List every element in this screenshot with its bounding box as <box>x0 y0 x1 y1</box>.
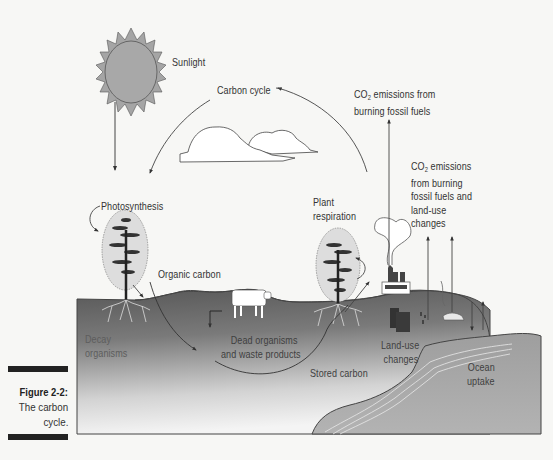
co2-landuse-text: emissions <box>428 160 471 172</box>
organic-carbon-arrow <box>133 285 143 297</box>
ocean-uptake-label: Ocean uptake <box>467 361 495 388</box>
ocean-line1: Ocean <box>468 361 495 373</box>
carbon-cycle-label: Carbon cycle <box>217 84 271 98</box>
co2-fossil-line2: burning fossil fuels <box>354 105 430 117</box>
organic-carbon-label: Organic carbon <box>158 268 221 282</box>
caption-bottom-bar <box>8 434 68 440</box>
co2-landuse-line2: from burning <box>411 177 463 189</box>
caption-top-bar <box>8 366 68 372</box>
carbon-cycle-diagram: Sunlight Carbon cycle CO2 emissions from… <box>0 0 553 460</box>
co2-landuse-line3: fossil fuels and <box>411 190 472 202</box>
caption-line2: cycle. <box>43 416 68 428</box>
stored-carbon-label: Stored carbon <box>310 367 368 381</box>
plant-respiration-line1: Plant <box>313 196 334 208</box>
plant-respiration-label: Plant respiration <box>313 196 356 223</box>
carbon-cycle-arrowhead <box>276 88 282 89</box>
dead-organisms-line1: Dead organisms <box>231 334 298 346</box>
cloud-icon <box>180 127 318 162</box>
factory-icon <box>375 218 411 294</box>
dead-organisms-label: Dead organisms and waste products <box>221 334 301 361</box>
co2-landuse-line5: changes <box>411 217 446 229</box>
sunlight-label: Sunlight <box>172 56 205 70</box>
photosynthesis-label: Photosynthesis <box>101 200 163 214</box>
figure-caption: Figure 2-2: The carbon cycle. <box>0 366 68 446</box>
land-use-line2: changes <box>384 353 419 365</box>
decay-organisms-label: Decay organisms <box>85 333 127 360</box>
plant-respiration-line2: respiration <box>313 210 356 222</box>
sun-icon <box>96 28 166 116</box>
decay-line2: organisms <box>85 347 127 359</box>
figure-number: Figure 2-2: <box>20 386 68 398</box>
co2-text: CO <box>411 160 425 172</box>
dead-organisms-line2: and waste products <box>221 348 301 360</box>
co2-fossil-text: emissions from <box>371 88 435 100</box>
co2-landuse-line4: land-use <box>411 204 446 216</box>
land-use-changes-label: Land-use changes <box>381 339 419 366</box>
caption-line1: The carbon <box>19 401 68 413</box>
co2-fossil-fuels-label: CO2 emissions from burning fossil fuels <box>354 88 435 118</box>
co2-text: CO <box>354 88 368 100</box>
photosynthesis-arrow <box>90 206 100 231</box>
co2-landuse-label: CO2 emissions from burning fossil fuels … <box>411 160 472 231</box>
ocean-line2: uptake <box>467 375 495 387</box>
decay-line1: Decay <box>85 333 111 345</box>
land-use-line1: Land-use <box>381 339 419 351</box>
